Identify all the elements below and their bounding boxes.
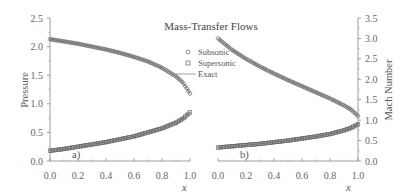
- panel-label-a: a): [72, 149, 81, 161]
- chart-title: Mass-Transfer Flows: [164, 20, 257, 32]
- chart-canvas: Mass-Transfer Flows Subsonic Supersonic …: [0, 0, 405, 195]
- y-tick-label: 1.0: [31, 98, 44, 109]
- series-subsonic: [48, 37, 192, 95]
- legend-item-supersonic: Supersonic: [186, 58, 236, 68]
- legend-item-exact: Exact: [176, 69, 218, 79]
- x-tick-label: 0.2: [72, 170, 85, 181]
- y-tick-label: 1.5: [31, 70, 44, 81]
- panel-b-mach-number: 0.00.20.40.60.81.00.00.51.01.52.02.53.03…: [212, 13, 378, 182]
- series-supersonic: [48, 111, 191, 153]
- x-tick-label: 0.0: [212, 170, 225, 181]
- x-tick-label: 0.4: [100, 170, 113, 181]
- exact-line: [218, 38, 358, 116]
- panel-label-b: b): [240, 149, 249, 161]
- circle-marker-icon: [186, 50, 190, 54]
- x-tick-label: 0.6: [296, 170, 309, 181]
- x-tick-label: 0.6: [128, 170, 141, 181]
- square-marker-icon: [186, 61, 190, 65]
- x-tick-label: 0.8: [156, 170, 169, 181]
- x-tick-label: 0.0: [44, 170, 57, 181]
- y-tick-label: 2.0: [365, 74, 378, 85]
- y-tick-label: 3.5: [365, 13, 378, 24]
- series-subsonic: [216, 123, 359, 150]
- x-tick-label: 0.8: [324, 170, 337, 181]
- legend-item-subsonic: Subsonic: [186, 47, 229, 57]
- legend-label: Supersonic: [198, 58, 236, 68]
- x-tick-label: 0.2: [240, 170, 253, 181]
- y-axis-title-pressure: Pressure: [19, 72, 30, 108]
- legend: Subsonic Supersonic Exact: [176, 47, 236, 79]
- exact-line: [50, 112, 190, 150]
- y-tick-label: 2.5: [365, 53, 378, 64]
- y-tick-label: 0.5: [365, 135, 378, 146]
- x-axis-title-b: x: [345, 182, 351, 193]
- exact-line: [50, 39, 190, 93]
- y-tick-label: 3.0: [365, 33, 378, 44]
- x-axis-title-a: x: [181, 182, 187, 193]
- x-tick-label: 1.0: [352, 170, 365, 181]
- x-tick-label: 1.0: [184, 170, 197, 181]
- x-tick-label: 0.4: [268, 170, 281, 181]
- y-tick-label: 2.0: [31, 41, 44, 52]
- y-tick-label: 0.0: [31, 156, 44, 167]
- y-tick-label: 2.5: [31, 13, 44, 24]
- y-tick-label: 1.0: [365, 115, 378, 126]
- y-tick-label: 0.5: [31, 127, 44, 138]
- panel-a-pressure: 0.00.20.40.60.81.00.00.51.01.52.02.5: [31, 13, 197, 182]
- legend-label: Subsonic: [198, 47, 229, 57]
- y-axis-title-mach-number: Mach Number: [383, 59, 394, 120]
- y-tick-label: 1.5: [365, 94, 378, 105]
- y-tick-label: 0.0: [365, 156, 378, 167]
- legend-label: Exact: [198, 69, 218, 79]
- series-supersonic: [216, 37, 360, 118]
